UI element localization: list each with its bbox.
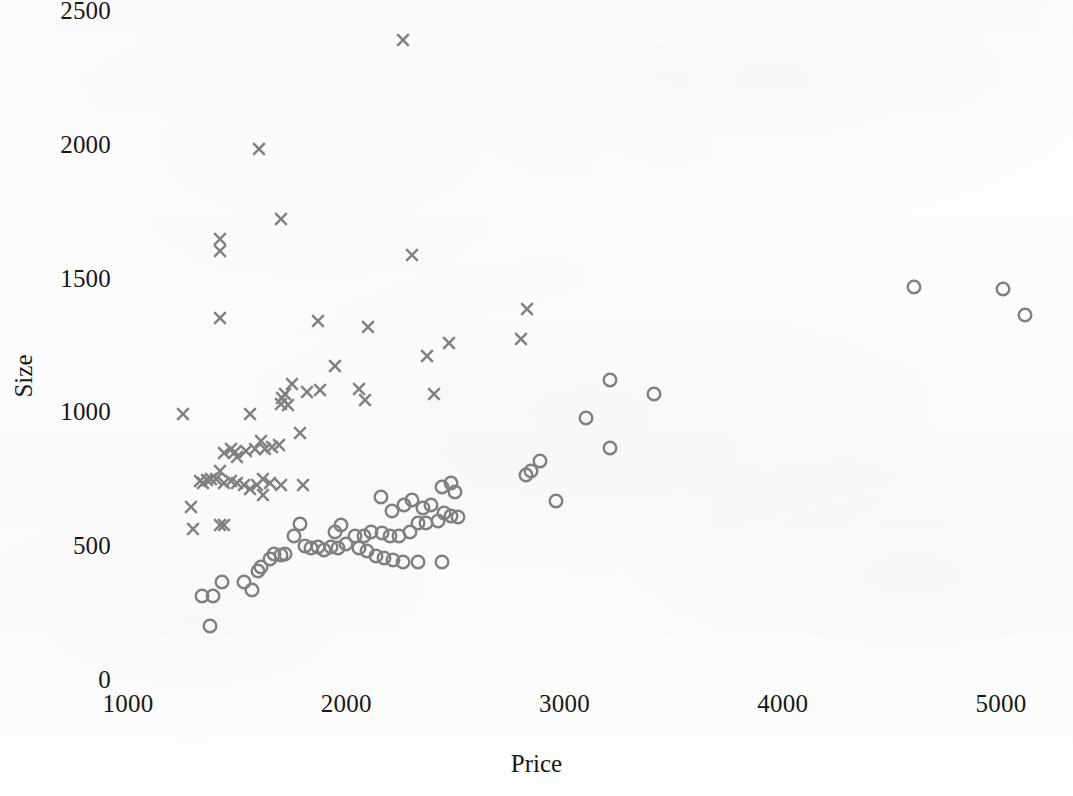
plot-data-area (128, 13, 1001, 682)
x-tick-label-2000: 2000 (286, 690, 406, 718)
x-axis-title: Price (0, 750, 1073, 778)
y-tick-label-2500: 2500 (0, 0, 111, 25)
y-tick-label-500: 500 (0, 532, 111, 560)
x-tick-label-1000: 1000 (68, 690, 188, 718)
scatter-plot-figure: Size 05001000150020002500 10002000300040… (0, 0, 1073, 796)
y-tick-label-1500: 1500 (0, 265, 111, 293)
x-tick-label-4000: 4000 (723, 690, 843, 718)
y-tick-label-2000: 2000 (0, 131, 111, 159)
y-tick-label-1000: 1000 (0, 398, 111, 426)
x-tick-label-3000: 3000 (505, 690, 625, 718)
x-tick-label-5000: 5000 (941, 690, 1061, 718)
